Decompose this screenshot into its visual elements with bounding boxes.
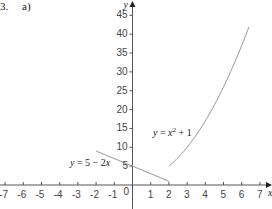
- y-tick-label: 15: [117, 123, 128, 133]
- y-axis-label: y: [124, 0, 128, 10]
- x-tick-label: -3: [72, 190, 81, 200]
- y-tick-label: 20: [117, 105, 128, 115]
- x-tick-label: 2: [166, 190, 172, 200]
- x-tick-label: -7: [0, 190, 8, 200]
- function-label-linear: y = 5 − 2x: [70, 158, 110, 168]
- x-tick-label: 6: [239, 190, 245, 200]
- plot-area: [0, 0, 272, 209]
- x-tick-label: 3: [184, 190, 190, 200]
- y-tick-label: 40: [117, 29, 128, 39]
- y-tick-label: 35: [117, 48, 128, 58]
- y-tick-label: 10: [117, 142, 128, 152]
- x-tick-label: -5: [36, 190, 45, 200]
- series-line-1: [169, 27, 249, 166]
- x-tick-label: 1: [148, 190, 154, 200]
- y-tick-label: 25: [117, 86, 128, 96]
- x-tick-label: 5: [221, 190, 227, 200]
- x-tick-label: 4: [202, 190, 208, 200]
- x-axis-label: x: [268, 188, 272, 198]
- x-tick-label: -2: [90, 190, 99, 200]
- y-tick-label: 30: [117, 67, 128, 77]
- graph-figure: 3. a) -7-6-5-4-3-2-112345675101520253035…: [0, 0, 272, 209]
- y-tick-label: 5: [123, 161, 129, 171]
- origin-label: 0: [124, 187, 130, 197]
- y-axis-arrow-icon: [130, 1, 136, 7]
- x-tick-label: 7: [257, 190, 263, 200]
- y-tick-label: 45: [117, 10, 128, 20]
- function-label-quadratic: y = x2 + 1: [153, 127, 192, 138]
- x-tick-label: -1: [108, 190, 117, 200]
- x-tick-label: -4: [54, 190, 63, 200]
- x-tick-label: -6: [17, 190, 26, 200]
